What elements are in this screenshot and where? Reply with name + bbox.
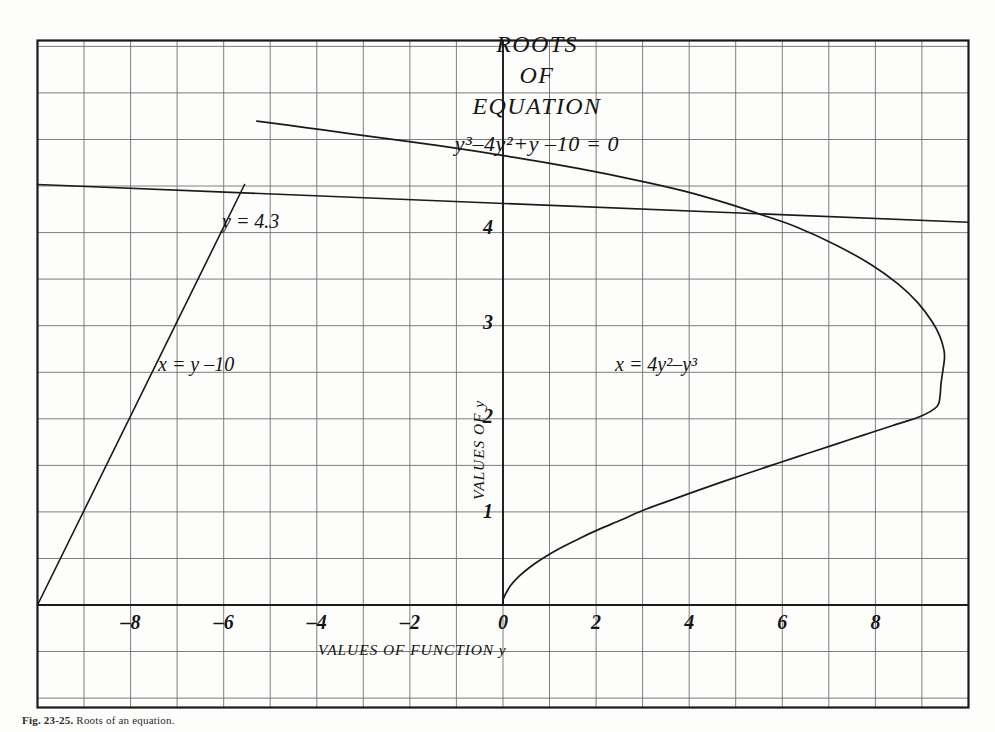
- chart-title-block: ROOTS OF EQUATION: [472, 31, 603, 119]
- line-equation-label: x = y –10: [157, 353, 234, 376]
- title-line-1: ROOTS: [495, 31, 578, 57]
- figure-caption-text: Roots of an equation.: [76, 714, 174, 726]
- title-line-3: EQUATION: [472, 93, 603, 119]
- x-tick-label: 4: [683, 611, 694, 633]
- x-axis-title: VALUES OF FUNCTION y: [318, 641, 507, 658]
- x-tick-label: 2: [590, 611, 601, 633]
- x-tick-label: 8: [870, 611, 880, 633]
- x-tick-label: –8: [120, 611, 141, 633]
- title-line-2: OF: [520, 62, 555, 88]
- equation-label: y³–4y²+y –10 = 0: [453, 131, 619, 156]
- x-axis-tick-labels: –8–6–4–202468: [120, 611, 881, 633]
- series-path: [38, 185, 245, 606]
- curve-equation-label: x = 4y²–y³: [614, 353, 698, 376]
- root-value-label: y = 4.3: [220, 210, 279, 233]
- x-tick-label: 6: [777, 611, 787, 633]
- x-tick-label: –4: [306, 611, 327, 633]
- y-axis-title: VALUES OF y: [470, 400, 487, 500]
- x-tick-label: –2: [399, 611, 420, 633]
- roots-of-equation-plot: –8–6–4–202468 1234 VALUES OF FUNCTION y …: [0, 0, 995, 732]
- y-tick-label: 1: [483, 500, 493, 522]
- y-tick-label: 4: [482, 216, 493, 238]
- x-tick-label: –6: [213, 611, 234, 633]
- figure-caption: Fig. 23-25. Roots of an equation.: [22, 714, 175, 726]
- y-tick-label: 3: [482, 311, 493, 333]
- x-tick-label: 0: [498, 611, 508, 633]
- series-path: [257, 121, 945, 605]
- figure-number: Fig. 23-25.: [22, 714, 73, 726]
- figure-panel: –8–6–4–202468 1234 VALUES OF FUNCTION y …: [0, 0, 995, 732]
